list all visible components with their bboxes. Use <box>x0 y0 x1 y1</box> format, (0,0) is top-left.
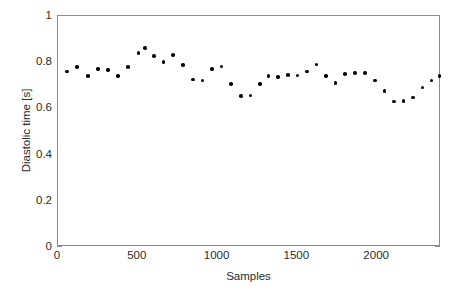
data-point <box>137 51 141 55</box>
data-point <box>126 65 130 69</box>
data-point <box>201 79 205 83</box>
data-point <box>249 94 253 98</box>
x-axis-tick-label: 500 <box>107 249 167 261</box>
data-point <box>373 79 377 83</box>
data-point <box>96 67 100 71</box>
data-point <box>65 70 69 74</box>
data-point <box>191 78 195 82</box>
x-axis-label: Samples <box>57 270 440 283</box>
x-axis-tick-label: 1000 <box>187 249 247 261</box>
data-point <box>152 54 156 58</box>
data-point <box>116 74 120 78</box>
data-point <box>258 82 262 86</box>
scatter-plot-figure: 00.20.40.60.81 0500100015002000 Samples … <box>0 0 457 298</box>
data-point <box>353 71 357 75</box>
data-point <box>276 75 280 79</box>
data-point <box>210 67 214 71</box>
data-point <box>286 73 290 77</box>
data-point <box>162 60 166 64</box>
y-axis-label: Diastolic time [s] <box>18 15 34 246</box>
y-axis-tick-right <box>435 246 440 247</box>
data-point <box>220 65 224 69</box>
data-point <box>363 71 367 75</box>
data-point <box>383 89 387 93</box>
data-point <box>106 68 110 72</box>
data-point <box>86 74 90 78</box>
data-point <box>334 81 338 85</box>
data-point <box>315 63 319 67</box>
data-point <box>267 74 271 78</box>
data-point <box>143 46 147 50</box>
y-axis-tick <box>57 246 62 247</box>
data-point <box>229 82 233 86</box>
data-point <box>181 63 185 67</box>
data-point <box>411 96 415 100</box>
data-point <box>392 100 396 104</box>
data-point <box>75 65 79 69</box>
plot-area <box>57 15 440 246</box>
data-point <box>239 94 243 98</box>
x-axis-tick-label: 1500 <box>266 249 326 261</box>
data-point <box>324 74 328 78</box>
data-point <box>171 53 175 57</box>
data-point <box>402 99 406 103</box>
x-axis-tick-label: 2000 <box>346 249 406 261</box>
data-point <box>305 70 309 74</box>
data-point <box>343 72 347 76</box>
data-point <box>430 79 434 83</box>
data-points-layer <box>58 16 439 245</box>
data-point <box>421 86 425 90</box>
x-axis-tick-label: 0 <box>27 249 87 261</box>
data-point <box>296 74 300 78</box>
data-point <box>438 74 442 78</box>
